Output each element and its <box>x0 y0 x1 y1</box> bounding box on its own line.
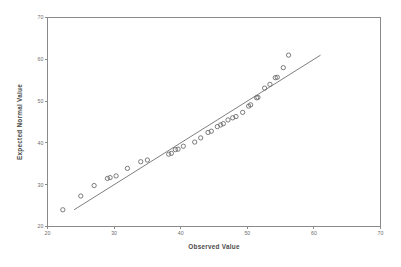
x-tick-label: 20 <box>45 230 51 236</box>
x-tick-label: 70 <box>378 230 384 236</box>
data-point-marker <box>199 136 203 140</box>
y-tick-label: 30 <box>38 182 44 188</box>
data-point-marker <box>240 110 244 114</box>
x-tick-label: 50 <box>244 230 250 236</box>
data-point-marker <box>114 174 118 178</box>
data-point-marker <box>181 144 185 148</box>
y-tick-label: 50 <box>38 98 44 104</box>
x-tick-label: 40 <box>178 230 184 236</box>
data-point-marker <box>105 176 109 180</box>
data-point-marker <box>92 183 96 187</box>
x-axis-title: Observed Value <box>188 243 240 250</box>
data-point-marker <box>108 175 112 179</box>
y-tick-label: 40 <box>38 140 44 146</box>
data-point-marker <box>281 66 285 70</box>
qq-plot-canvas: 203040506070203040506070Observed ValueEx… <box>0 0 401 267</box>
data-point-marker <box>145 158 149 162</box>
data-point-marker <box>125 166 129 170</box>
y-axis-title: Expected Normal Value <box>16 84 24 160</box>
x-tick-label: 60 <box>311 230 317 236</box>
y-tick-label: 60 <box>38 56 44 62</box>
x-tick-label: 30 <box>111 230 117 236</box>
data-point-marker <box>262 86 266 90</box>
data-point-marker <box>286 53 290 57</box>
data-point-marker <box>167 152 171 156</box>
data-point-marker <box>169 151 173 155</box>
y-tick-label: 70 <box>38 14 44 20</box>
data-point-marker <box>193 140 197 144</box>
qq-plot-figure: 203040506070203040506070Observed ValueEx… <box>0 0 401 267</box>
data-point-marker <box>221 122 225 126</box>
data-point-marker <box>176 147 180 151</box>
data-point-marker <box>268 82 272 86</box>
data-point-marker <box>79 194 83 198</box>
data-point-marker <box>61 208 65 212</box>
data-point-marker <box>139 160 143 164</box>
normal-reference-line <box>74 55 320 210</box>
y-tick-label: 20 <box>38 223 44 229</box>
data-point-marker <box>226 118 230 122</box>
